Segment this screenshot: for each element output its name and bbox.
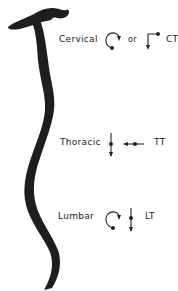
thoracic-label: Thoracic (60, 137, 101, 147)
cervical-or-connector: or (128, 35, 137, 45)
cervical-rotation-icon (106, 33, 121, 50)
spine-column (24, 20, 60, 290)
lumbar-vertical-translation-icon (129, 208, 133, 232)
lumbar-code: LT (145, 211, 155, 221)
cervical-label: Cervical (59, 34, 98, 44)
cervical-translation-icon (146, 32, 160, 50)
thoracic-vertical-translation-icon (109, 133, 113, 157)
lumbar-label: Lumbar (58, 211, 94, 221)
thoracic-horizontal-translation-icon (123, 142, 144, 146)
cervical-code: CT (166, 34, 178, 44)
spine-silhouette (8, 8, 69, 290)
spine-diagram: Cervical or CT Thoracic TT Lumbar LT (0, 0, 178, 291)
lumbar-rotation-icon (106, 212, 121, 230)
thoracic-code: TT (154, 137, 165, 147)
